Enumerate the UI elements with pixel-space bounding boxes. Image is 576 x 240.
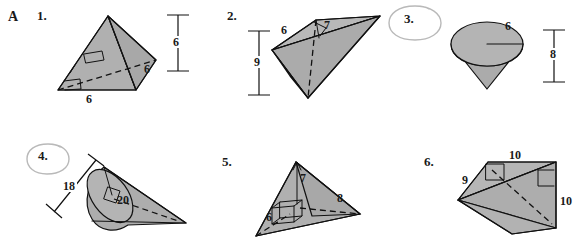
dimension-3-radius: 6: [505, 20, 511, 32]
dimension-4-axis: 20: [117, 194, 129, 206]
circle-mark-3-path: [389, 6, 441, 40]
figure-3-inverted-cone: [443, 10, 533, 92]
dimension-2-top-left: 6: [281, 24, 287, 36]
dimension-6-slant: 9: [462, 174, 468, 186]
dimension-1-base-front: 6: [86, 93, 92, 105]
figure-6-oblique-prism: [450, 158, 572, 240]
circle-mark-item-3: [385, 4, 445, 42]
dimension-2-top-right: 7: [324, 19, 330, 31]
item-number-2: 2.: [227, 9, 237, 22]
dimension-6-right: 10: [560, 195, 572, 207]
figure-2-oblique-pyramid: [256, 12, 386, 104]
dimension-5-base-right: 8: [337, 192, 343, 204]
worksheet-page: A 1. 6 6 6 2. 6 7: [0, 0, 576, 240]
item-number-5: 5.: [222, 155, 232, 168]
figure-1-square-pyramid: [48, 10, 168, 105]
dimension-4-diameter: 18: [61, 180, 77, 192]
section-letter: A: [8, 10, 19, 24]
item-number-1: 1.: [37, 9, 47, 22]
item-number-6: 6.: [424, 155, 434, 168]
dimension-6-top: 10: [509, 149, 521, 161]
dimension-5-base-left: 6: [266, 211, 272, 223]
dimension-1-height: 6: [171, 36, 181, 48]
dimension-bar-4: [44, 152, 110, 224]
dimension-1-base-right: 6: [144, 63, 150, 75]
dimension-5-height: 7: [300, 172, 306, 184]
figure-5-triangular-pyramid: [250, 158, 380, 240]
item-number-3: 3.: [404, 12, 414, 25]
dimension-3-height: 8: [548, 48, 558, 60]
dimension-2-height: 9: [252, 56, 262, 68]
